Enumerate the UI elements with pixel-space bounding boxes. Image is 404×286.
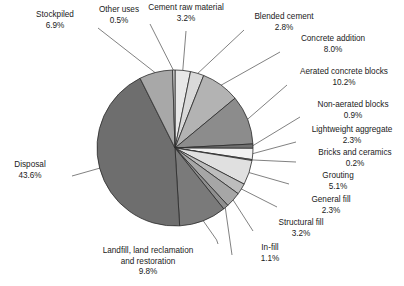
label-other-uses: Other uses0.5% xyxy=(99,5,139,25)
label-stockpiled: Stockpiled6.9% xyxy=(36,10,74,30)
leader-line xyxy=(247,85,287,120)
leader-line xyxy=(220,52,280,86)
label-landfill: Landfill, land reclamationand restoratio… xyxy=(103,246,194,276)
leader-line xyxy=(248,172,289,184)
leader-line xyxy=(72,168,101,176)
leader-line xyxy=(150,24,174,71)
label-in-fill: In-fill1.1% xyxy=(261,243,280,263)
leader-line xyxy=(183,31,186,71)
label-aerated-concrete-blocks: Aerated concrete blocks10.2% xyxy=(300,67,388,87)
pie-chart-figure: Cement raw material 3.2%Blended cement 2… xyxy=(0,0,404,286)
label-structural-fill: Structural fill3.2% xyxy=(278,218,323,238)
leader-line xyxy=(225,206,232,255)
label-cement-raw-material: Cement raw material3.2% xyxy=(148,3,224,23)
leader-line xyxy=(197,30,244,74)
leader-line xyxy=(203,220,218,244)
label-non-aerated-blocks: Non-aerated blocks0.9% xyxy=(318,100,389,120)
leader-line xyxy=(241,189,278,208)
label-lightweight-aggregate: Lightweight aggregate2.3% xyxy=(312,125,393,145)
label-grouting: Grouting5.1% xyxy=(322,171,354,191)
label-bricks-and-ceramics: Bricks and ceramics0.2% xyxy=(318,148,391,168)
label-blended-cement: Blended cement2.8% xyxy=(254,12,314,32)
label-general-fill: General fill2.3% xyxy=(311,195,350,215)
leader-line xyxy=(252,117,300,146)
label-disposal: Disposal43.6% xyxy=(14,160,46,180)
leader-line xyxy=(233,199,253,231)
leader-line xyxy=(98,28,156,73)
pie-slices: Cement raw material 3.2%Blended cement 2… xyxy=(97,70,253,226)
leader-line xyxy=(252,142,296,154)
leader-line xyxy=(251,160,296,162)
label-concrete-addition: Concrete addition8.0% xyxy=(301,34,366,54)
